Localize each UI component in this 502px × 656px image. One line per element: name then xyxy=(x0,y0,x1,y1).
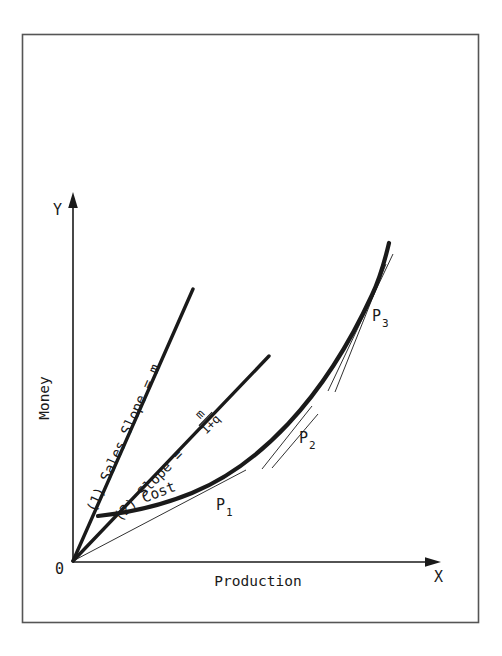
point-label-p2-subscript: 2 xyxy=(309,439,316,452)
tangent-at-p2 xyxy=(262,406,318,469)
point-label-p3-subscript: 3 xyxy=(382,317,389,330)
x-axis-title: Production xyxy=(214,573,301,589)
point-label-p1: P 1 xyxy=(216,496,233,519)
point-label-p3: P 3 xyxy=(372,307,389,330)
point-label-p1-base: P xyxy=(216,496,225,514)
origin-label: 0 xyxy=(55,560,64,578)
figure-canvas: Y X 0 Money Production (1) Sales Slope =… xyxy=(0,0,502,656)
x-axis-tip-label: X xyxy=(434,568,443,586)
figure-border xyxy=(23,35,479,623)
point-label-p2-base: P xyxy=(299,429,308,447)
economics-cost-sales-diagram: Y X 0 Money Production (1) Sales Slope =… xyxy=(0,0,502,656)
point-label-p3-base: P xyxy=(372,307,381,325)
y-axis-tip-label: Y xyxy=(53,201,62,219)
y-axis-title: Money xyxy=(36,376,52,420)
point-label-p2: P 2 xyxy=(299,429,316,452)
y-axis-arrow-icon xyxy=(68,192,78,208)
point-label-p1-subscript: 1 xyxy=(226,506,233,519)
revenue-line-fraction: m 1+q xyxy=(187,401,223,437)
tangent-at-p3-lower xyxy=(335,264,386,392)
x-axis-arrow-icon xyxy=(425,557,441,567)
